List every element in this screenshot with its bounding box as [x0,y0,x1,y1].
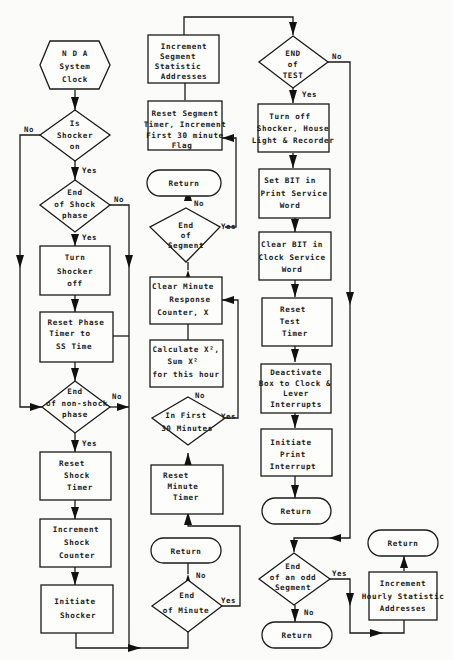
box-reset-segment-timer[interactable]: Reset Segment Timer, Increment First 30 … [144,101,227,150]
label-no: No [194,199,204,208]
svg-text:Statistic: Statistic [155,62,202,71]
svg-text:Segment: Segment [275,583,311,592]
svg-text:Light & Recorder: Light & Recorder [252,136,335,145]
svg-text:Timer: Timer [67,483,93,492]
svg-text:End: End [178,221,194,230]
box-reset-minute-timer[interactable]: Reset Minute Timer [151,465,223,514]
node-start-nda-system-clock[interactable]: N D A System Clock [40,41,110,89]
svg-text:Interrupt: Interrupt [270,462,317,471]
svg-text:Counter: Counter [59,551,95,560]
svg-text:Segment: Segment [168,241,204,250]
box-increment-segment-statistic[interactable]: Increment Segment Statistic Addresses [148,35,219,83]
svg-text:First 30 minute: First 30 minute [146,131,224,140]
box-turn-shocker-off[interactable]: Turn Shocker off [40,246,110,295]
svg-text:Counter, X: Counter, X [157,308,209,317]
box-deactivate-box-to-clock-lever-interrupts[interactable]: Deactivate Box to Clock & Lever Interrup… [259,364,331,413]
box-set-bit-print-service-word[interactable]: Set BIT in Print Service Word [259,169,330,218]
svg-text:Turn off: Turn off [269,112,310,121]
decision-end-of-odd-segment[interactable]: End of an odd Segment [259,553,330,605]
svg-text:Timer, Increment: Timer, Increment [144,120,227,129]
svg-text:of Shock: of Shock [54,200,95,209]
decision-is-shocker-on[interactable]: Is Shocker on [40,110,110,161]
svg-text:Increment: Increment [380,579,427,588]
svg-text:End: End [285,562,301,571]
svg-text:Return: Return [280,507,311,516]
label-no: No [114,195,124,204]
box-reset-phase-timer[interactable]: Reset Phase Timer to SS Time [40,312,113,362]
decision-end-of-shock-phase[interactable]: End of Shock phase [40,180,110,232]
svg-text:on: on [70,142,80,151]
terminal-return-1[interactable]: Return [147,170,221,196]
svg-text:Shocker, House: Shocker, House [257,124,329,133]
box-turn-off-shocker-house-light-recorder[interactable]: Turn off Shocker, House Light & Recorder [252,104,335,152]
box-reset-test-timer[interactable]: Reset Test Timer [262,298,332,346]
label-yes: Yes [82,166,97,175]
svg-text:of non-shock: of non-shock [46,399,108,408]
svg-text:Shocker: Shocker [57,131,93,140]
svg-text:Print: Print [280,450,306,459]
decision-end-of-minute[interactable]: End of Minute [152,580,222,632]
box-clear-bit-clock-service-word[interactable]: Clear BIT in Clock Service Word [258,232,331,280]
box-increment-hourly-statistic-addresses[interactable]: Increment Hourly Statistic Addresses [362,572,445,620]
label-yes: Yes [302,90,317,99]
label-no: No [195,391,205,400]
svg-text:TEST: TEST [283,71,304,80]
svg-text:phase: phase [62,211,88,220]
box-clear-minute-response-counter[interactable]: Clear Minute Response Counter, X [150,277,222,324]
svg-text:Deactivate: Deactivate [270,368,322,377]
label-no: No [332,52,342,61]
label-no: No [304,608,314,617]
svg-text:Turn: Turn [65,253,86,262]
label-yes: Yes [221,412,236,421]
svg-text:Shocker: Shocker [57,267,93,276]
svg-text:End: End [67,188,83,197]
svg-text:Segment: Segment [160,52,196,61]
svg-text:Timer to: Timer to [49,329,90,338]
label-no: No [24,125,34,134]
terminal-return-2[interactable]: Return [151,538,221,563]
label-yes: Yes [82,233,97,242]
decision-end-of-non-shock-phase[interactable]: End of non-shock phase [42,381,110,433]
svg-text:End: End [179,591,195,600]
box-calculate-x-squared[interactable]: Calculate X², Sum X² for this hour [150,340,223,387]
svg-text:Shocker: Shocker [60,611,96,620]
svg-text:Shock: Shock [64,538,90,547]
box-initiate-shocker[interactable]: Initiate Shocker [41,585,113,633]
svg-text:Reset: Reset [59,459,85,468]
svg-text:Initiate: Initiate [54,597,95,606]
svg-text:of: of [181,231,191,240]
terminal-return-4[interactable]: Return [262,622,332,648]
svg-text:30 Minutes: 30 Minutes [161,424,213,433]
flowchart: N D A System Clock Is Shocker on No Yes … [0,0,453,660]
decision-end-of-test[interactable]: END of TEST [259,36,328,88]
svg-text:of Minute: of Minute [163,606,210,615]
svg-text:Sum X²: Sum X² [167,357,198,366]
svg-text:Timer: Timer [282,329,308,338]
svg-text:Box to Clock &: Box to Clock & [259,379,331,388]
svg-text:Clear Minute: Clear Minute [152,282,214,291]
decision-end-of-segment[interactable]: End of Segment [150,208,220,262]
svg-text:Calculate X²,: Calculate X², [152,345,219,354]
svg-text:Addresses: Addresses [380,604,427,613]
box-increment-shock-counter[interactable]: Increment Shock Counter [40,519,111,567]
svg-text:Reset Phase: Reset Phase [48,318,105,327]
terminal-return-3[interactable]: Return [262,498,331,524]
svg-text:Reset Segment: Reset Segment [151,109,218,118]
svg-text:phase: phase [62,410,88,419]
svg-text:Set BIT in: Set BIT in [264,176,316,185]
svg-text:Hourly Statistic: Hourly Statistic [362,592,445,601]
svg-text:Return: Return [170,547,201,556]
decision-in-first-30-minutes[interactable]: In First 30 Minutes [152,397,225,445]
svg-text:Timer: Timer [173,493,199,502]
terminal-return-5[interactable]: Return [368,530,438,556]
svg-text:Test: Test [280,317,301,326]
svg-text:Addresses: Addresses [161,72,208,81]
label-yes: Yes [221,596,236,605]
svg-text:Increment: Increment [161,42,208,51]
box-initiate-print-interrupt[interactable]: Initiate Print Interrupt [261,429,332,476]
svg-text:END: END [285,49,301,58]
svg-text:Increment: Increment [53,525,100,534]
svg-text:Clear BIT in: Clear BIT in [261,240,323,249]
box-reset-shock-timer[interactable]: Reset Shock Timer [40,452,111,500]
svg-text:Interrupts: Interrupts [270,400,322,409]
